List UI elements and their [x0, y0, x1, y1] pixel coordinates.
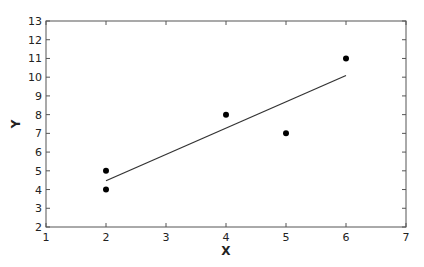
data-points: [103, 55, 349, 192]
y-tick-label: 12: [28, 34, 42, 47]
x-tick-label: 1: [43, 231, 50, 244]
trend-line: [106, 75, 346, 180]
y-tick-label: 9: [35, 90, 42, 103]
y-tick-label: 13: [28, 15, 42, 28]
y-tick-label: 6: [35, 146, 42, 159]
y-tick-label: 11: [28, 52, 42, 65]
y-tick-label: 8: [35, 109, 42, 122]
y-tick-label: 3: [35, 202, 42, 215]
y-tick-label: 7: [35, 127, 42, 140]
x-tick-label: 6: [343, 231, 350, 244]
y-tick-label: 4: [35, 184, 42, 197]
data-point: [103, 187, 109, 193]
y-tick-label: 10: [28, 71, 42, 84]
x-tick-label: 7: [403, 231, 410, 244]
y-axis-label: Y: [9, 119, 23, 129]
x-tick-label: 3: [163, 231, 170, 244]
y-tick-label: 2: [35, 221, 42, 234]
plot-frame: [46, 21, 406, 227]
tick-labels: 12345672345678910111213: [28, 15, 410, 244]
scatter-chart: 12345672345678910111213 X Y: [0, 0, 424, 267]
y-tick-label: 5: [35, 165, 42, 178]
x-axis-label: X: [221, 244, 231, 258]
axis-ticks: [46, 21, 406, 227]
x-tick-label: 2: [103, 231, 110, 244]
data-point: [343, 55, 349, 61]
x-tick-label: 4: [223, 231, 230, 244]
data-point: [223, 112, 229, 118]
data-point: [103, 168, 109, 174]
data-point: [283, 130, 289, 136]
regression-line: [106, 75, 346, 180]
x-tick-label: 5: [283, 231, 290, 244]
